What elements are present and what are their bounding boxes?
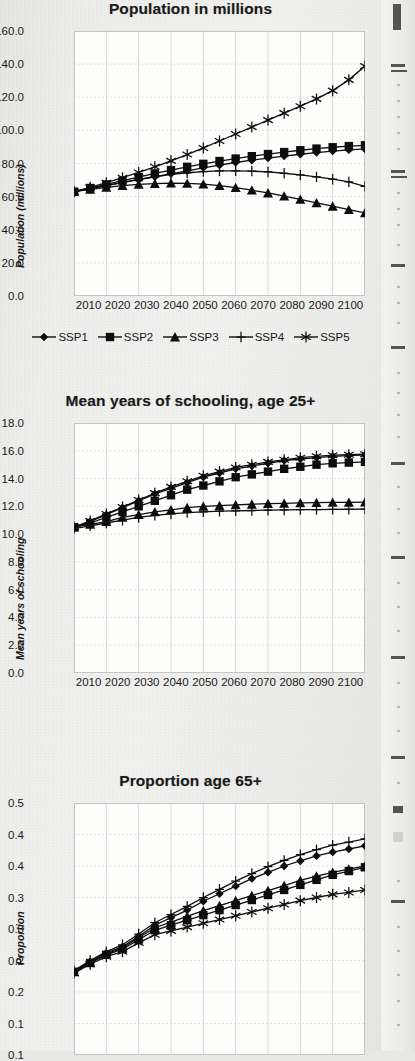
chart-title: Mean years of schooling, age 25+ — [0, 392, 381, 410]
x-tick-label: 2080 — [278, 676, 307, 688]
legend-item-ssp4: SSP4 — [228, 330, 284, 344]
series-ssp5 — [74, 449, 365, 533]
y-tick-label: 0.3 — [8, 923, 24, 935]
x-tick-label: 2020 — [103, 676, 132, 688]
plus-marker-icon — [228, 330, 254, 344]
y-axis-ticks: 0.02.04.06.08.010.012.014.016.018.0 — [0, 410, 46, 710]
y-tick-label: 0.0 — [8, 667, 24, 679]
x-tick-label: 2070 — [249, 299, 278, 311]
x-tick-label: 2080 — [278, 299, 307, 311]
x-tick-label: 2030 — [132, 299, 161, 311]
chart-proportion-age-65-plus: Proportion age 65+ Proportion 0.10.10.20… — [0, 772, 381, 1051]
y-tick-label: 0.1 — [8, 1018, 24, 1030]
y-tick-label: 160.0 — [0, 25, 24, 37]
y-tick-label: 140.0 — [0, 58, 24, 70]
series-ssp5 — [74, 884, 365, 978]
x-tick-label: 2090 — [307, 676, 336, 688]
asterisk-marker-icon — [293, 330, 319, 344]
y-tick-label: 40.0 — [2, 224, 24, 236]
legend-item-ssp2: SSP2 — [97, 330, 153, 344]
chart-title: Population in millions — [0, 0, 381, 18]
x-tick-label: 2100 — [336, 299, 365, 311]
y-axis-ticks: 0.10.10.20.20.30.30.40.40.5 — [0, 790, 46, 1048]
y-tick-label: 10.0 — [2, 528, 24, 540]
x-axis-ticks: 2010202020302040205020602070208020902100 — [74, 676, 365, 688]
y-tick-label: 80.0 — [2, 158, 24, 170]
x-tick-label: 2030 — [132, 676, 161, 688]
legend-item-ssp3: SSP3 — [162, 330, 218, 344]
legend-item-label: SSP1 — [58, 331, 87, 343]
legend-item-label: SSP5 — [320, 331, 349, 343]
square-marker-icon — [97, 330, 123, 344]
chart-title: Proportion age 65+ — [0, 772, 381, 790]
y-tick-label: 0.5 — [8, 797, 24, 809]
y-tick-label: 16.0 — [2, 445, 24, 457]
plot-area — [74, 31, 365, 296]
chart-legend: SSP1SSP2SSP3SSP4SSP5 — [0, 330, 381, 344]
y-tick-label: 14.0 — [2, 473, 24, 485]
x-tick-label: 2040 — [161, 299, 190, 311]
x-tick-label: 2020 — [103, 299, 132, 311]
x-tick-label: 2060 — [219, 676, 248, 688]
y-tick-label: 18.0 — [2, 417, 24, 429]
x-axis-ticks: 2010202020302040205020602070208020902100 — [74, 299, 365, 311]
chart-mean-years-of-schooling: Mean years of schooling, age 25+ Mean ye… — [0, 392, 381, 722]
y-tick-label: 0.3 — [8, 892, 24, 904]
x-tick-label: 2070 — [249, 676, 278, 688]
chart-population-in-millions: Population in millions Population (milli… — [0, 0, 381, 360]
y-axis-ticks: 0.020.040.060.080.0100.0120.0140.0160.0 — [0, 18, 46, 318]
x-tick-label: 2100 — [336, 676, 365, 688]
y-tick-label: 100.0 — [0, 124, 24, 136]
x-tick-label: 2090 — [307, 299, 336, 311]
x-tick-label: 2050 — [190, 299, 219, 311]
legend-item-ssp1: SSP1 — [31, 330, 87, 344]
x-tick-label: 2050 — [190, 676, 219, 688]
y-tick-label: 0.2 — [8, 955, 24, 967]
y-tick-label: 60.0 — [2, 191, 24, 203]
legend-item-label: SSP3 — [189, 331, 218, 343]
adjacent-column-margin — [381, 0, 415, 1051]
y-tick-label: 0.0 — [8, 290, 24, 302]
x-tick-label: 2010 — [74, 299, 103, 311]
y-tick-label: 4.0 — [8, 611, 24, 623]
legend-item-label: SSP2 — [124, 331, 153, 343]
y-tick-label: 0.4 — [8, 860, 24, 872]
diamond-marker-icon — [31, 330, 57, 344]
x-tick-label: 2040 — [161, 676, 190, 688]
y-tick-label: 0.4 — [8, 829, 24, 841]
y-tick-label: 0.2 — [8, 986, 24, 998]
plot-area — [74, 423, 365, 673]
legend-item-label: SSP4 — [255, 331, 284, 343]
y-tick-label: 12.0 — [2, 500, 24, 512]
triangle-marker-icon — [162, 330, 188, 344]
y-tick-label: 120.0 — [0, 91, 24, 103]
legend-item-ssp5: SSP5 — [293, 330, 349, 344]
y-tick-label: 6.0 — [8, 584, 24, 596]
series-ssp5 — [74, 61, 365, 198]
plot-area — [74, 803, 365, 1055]
x-tick-label: 2060 — [219, 299, 248, 311]
x-tick-label: 2010 — [74, 676, 103, 688]
y-tick-label: 8.0 — [8, 556, 24, 568]
y-tick-label: 20.0 — [2, 257, 24, 269]
y-tick-label: 2.0 — [8, 639, 24, 651]
y-tick-label: 0.1 — [8, 1049, 24, 1061]
